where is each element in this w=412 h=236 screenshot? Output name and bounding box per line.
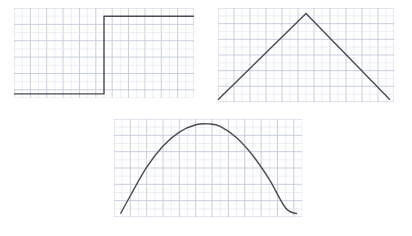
tent-panel-plot <box>218 8 394 102</box>
triangle-wave-panel <box>218 8 394 102</box>
parabola-panel-plot <box>114 119 302 217</box>
tent-curve <box>218 13 390 99</box>
step-curve <box>14 16 194 94</box>
three-graph-panels-figure <box>0 0 412 236</box>
step-panel-plot <box>14 8 194 98</box>
parabola-curve <box>121 124 298 214</box>
parabola-panel <box>114 119 302 217</box>
step-function-panel <box>14 8 194 98</box>
